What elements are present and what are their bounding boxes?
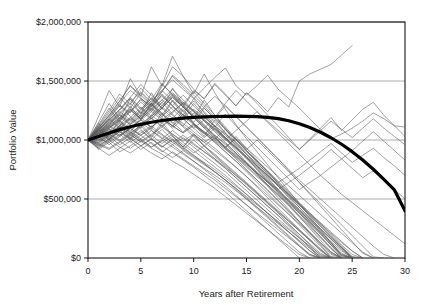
x-tick-label: 10 <box>189 266 199 276</box>
y-tick-label: $1,500,000 <box>36 76 81 86</box>
y-tick-label: $0 <box>71 253 81 263</box>
x-tick-label: 0 <box>85 266 90 276</box>
y-tick-label: $2,000,000 <box>36 17 81 27</box>
x-tick-label: 25 <box>347 266 357 276</box>
y-tick-label: $500,000 <box>43 194 81 204</box>
x-tick-label: 20 <box>294 266 304 276</box>
x-tick-label: 5 <box>138 266 143 276</box>
x-tick-label: 30 <box>400 266 410 276</box>
x-axis-title: Years after Retirement <box>199 288 294 299</box>
portfolio-value-line-chart: $0$500,000$1,000,000$1,500,000$2,000,000… <box>0 0 424 305</box>
x-tick-label: 15 <box>241 266 251 276</box>
y-tick-label: $1,000,000 <box>36 135 81 145</box>
chart-container: $0$500,000$1,000,000$1,500,000$2,000,000… <box>0 0 424 305</box>
y-axis-title: Portfolio Value <box>7 109 18 170</box>
